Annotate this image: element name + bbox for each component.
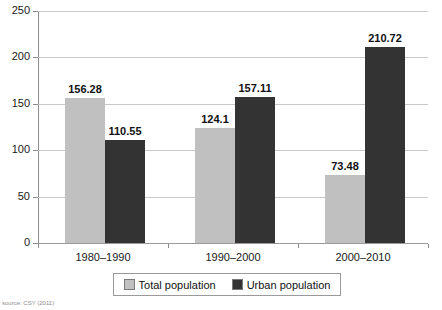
x-category-label: 1980–1990 [38,251,168,263]
bar-urban-1 [235,97,275,243]
bar-total-0 [65,98,105,243]
bar-group [65,11,145,243]
bar-urban-2 [365,47,405,243]
x-category-label: 2000–2010 [298,251,428,263]
x-category-label: 1990–2000 [168,251,298,263]
bar-group [325,11,405,243]
y-tick-label: 150 [0,98,30,109]
bar-urban-0 [105,140,145,243]
grid-line [38,243,428,244]
bar-group [195,11,275,243]
plot-area: 156.28110.55124.1157.1173.48210.72 [38,11,428,243]
legend-swatch-total-icon [124,279,135,290]
y-tick-label: 250 [0,5,30,16]
x-tick-mark [298,244,299,248]
bar-total-2 [325,175,365,243]
y-tick-label: 0 [0,237,30,248]
bar-chart-figure: 050100150200250 156.28110.55124.1157.117… [0,0,442,310]
y-tick-label: 100 [0,144,30,155]
legend-entry-urban: Urban population [232,279,331,291]
legend-swatch-urban-icon [232,279,243,290]
y-tick-label: 200 [0,51,30,62]
x-tick-mark [168,244,169,248]
x-tick-mark [38,244,39,248]
legend-label-urban: Urban population [247,279,331,291]
source-note: source: CSY (2011) [2,300,54,307]
bar-total-1 [195,128,235,243]
legend-entry-total: Total population [124,279,216,291]
legend-label-total: Total population [139,279,216,291]
y-tick-label: 50 [0,191,30,202]
chart-legend: Total population Urban population [113,273,341,296]
x-tick-mark [428,244,429,248]
